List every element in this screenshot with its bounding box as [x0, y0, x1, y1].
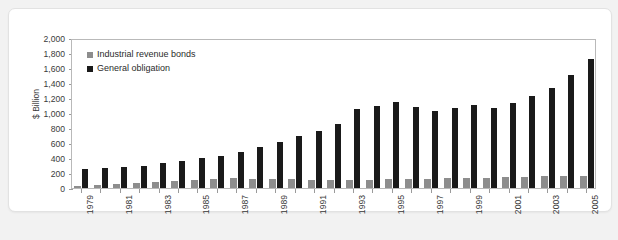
- bar-group: [520, 40, 537, 188]
- bar-group: [579, 40, 596, 188]
- y-tick-label: 1,000: [43, 109, 65, 119]
- y-tick-label: 2,000: [43, 34, 65, 44]
- bar-general-obligation: [199, 158, 205, 188]
- bar-industrial-revenue-bonds: [230, 178, 237, 188]
- y-tick-label: 200: [51, 169, 65, 179]
- bar-industrial-revenue-bonds: [94, 185, 101, 188]
- bar-general-obligation: [102, 168, 108, 188]
- bar-industrial-revenue-bonds: [171, 181, 178, 188]
- y-axis-tick-labels: 02004006008001,0001,2001,4001,6001,8002,…: [27, 31, 69, 183]
- bar-industrial-revenue-bonds: [308, 180, 315, 188]
- bar-general-obligation: [82, 169, 88, 189]
- bar-group: [540, 40, 557, 188]
- bar-industrial-revenue-bonds: [191, 180, 198, 188]
- chart-legend: Industrial revenue bondsGeneral obligati…: [87, 49, 196, 77]
- x-tick-label: 1999: [474, 195, 484, 229]
- bar-industrial-revenue-bonds: [133, 183, 140, 188]
- bar-industrial-revenue-bonds: [580, 176, 587, 188]
- y-tick-label: 1,600: [43, 64, 65, 74]
- x-tick-label: 1993: [357, 195, 367, 229]
- bar-group: [559, 40, 576, 188]
- legend-item[interactable]: General obligation: [87, 63, 196, 74]
- x-tick-label: 2005: [590, 195, 600, 229]
- bar-industrial-revenue-bonds: [483, 178, 490, 189]
- bar-group: [248, 40, 265, 188]
- bar-industrial-revenue-bonds: [463, 178, 470, 188]
- bar-group: [462, 40, 479, 188]
- bar-group: [365, 40, 382, 188]
- bar-industrial-revenue-bonds: [269, 179, 276, 188]
- bar-general-obligation: [160, 163, 166, 188]
- bar-general-obligation: [296, 136, 302, 188]
- bar-general-obligation: [568, 75, 574, 188]
- bar-general-obligation: [413, 107, 419, 188]
- legend-item[interactable]: Industrial revenue bonds: [87, 49, 196, 60]
- bar-general-obligation: [491, 108, 497, 188]
- bar-general-obligation: [529, 96, 535, 188]
- x-tick-label: 1991: [318, 195, 328, 229]
- bar-group: [345, 40, 362, 188]
- bar-industrial-revenue-bonds: [74, 186, 81, 188]
- bar-industrial-revenue-bonds: [560, 176, 567, 188]
- x-tick-label: 2001: [513, 195, 523, 229]
- bar-industrial-revenue-bonds: [385, 179, 392, 188]
- y-tick-label: 800: [51, 124, 65, 134]
- x-tick-label: 1997: [435, 195, 445, 229]
- legend-label: General obligation: [97, 63, 170, 74]
- bar-industrial-revenue-bonds: [288, 179, 295, 188]
- bar-group: [287, 40, 304, 188]
- bar-industrial-revenue-bonds: [521, 177, 528, 188]
- bar-industrial-revenue-bonds: [210, 179, 217, 188]
- y-tick-label: 400: [51, 154, 65, 164]
- bar-general-obligation: [277, 142, 283, 189]
- legend-swatch-icon: [87, 66, 93, 72]
- x-tick-label: 2003: [551, 195, 561, 229]
- bar-industrial-revenue-bonds: [424, 179, 431, 188]
- bar-group: [443, 40, 460, 188]
- x-tick-label: 1985: [201, 195, 211, 229]
- bar-general-obligation: [432, 111, 438, 188]
- bar-industrial-revenue-bonds: [113, 184, 120, 188]
- bar-group: [326, 40, 343, 188]
- y-tick-label: 600: [51, 139, 65, 149]
- x-tick-label: 1995: [396, 195, 406, 229]
- chart-card: $ Billion 02004006008001,0001,2001,4001,…: [8, 8, 612, 212]
- bar-general-obligation: [588, 59, 594, 188]
- x-tick-label: 1987: [240, 195, 250, 229]
- legend-label: Industrial revenue bonds: [97, 49, 196, 60]
- y-tick-label: 1,200: [43, 94, 65, 104]
- x-axis-tick-labels: 1979198119831985198719891991199319951997…: [71, 193, 596, 237]
- bar-general-obligation: [374, 106, 380, 189]
- legend-swatch-icon: [87, 52, 93, 58]
- y-tick-label: 1,800: [43, 49, 65, 59]
- bar-group: [482, 40, 499, 188]
- bar-general-obligation: [393, 102, 399, 188]
- bar-general-obligation: [354, 109, 360, 189]
- bar-general-obligation: [549, 88, 555, 189]
- x-tick-label: 1979: [85, 195, 95, 229]
- x-tick-label: 1981: [124, 195, 134, 229]
- x-tick-label: 1989: [279, 195, 289, 229]
- bar-industrial-revenue-bonds: [405, 179, 412, 188]
- bar-industrial-revenue-bonds: [541, 176, 548, 188]
- bar-general-obligation: [316, 131, 322, 188]
- bar-general-obligation: [121, 167, 127, 188]
- y-tick-label: 1,400: [43, 79, 65, 89]
- bar-group: [423, 40, 440, 188]
- bar-group: [229, 40, 246, 188]
- bar-industrial-revenue-bonds: [366, 180, 373, 188]
- bar-group: [501, 40, 518, 188]
- bar-industrial-revenue-bonds: [249, 179, 256, 188]
- x-tick-label: 1983: [163, 195, 173, 229]
- bar-general-obligation: [179, 161, 185, 188]
- bar-group: [268, 40, 285, 188]
- bar-general-obligation: [141, 166, 147, 189]
- bar-general-obligation: [257, 147, 263, 188]
- bar-industrial-revenue-bonds: [444, 178, 451, 188]
- bar-general-obligation: [471, 105, 477, 188]
- bar-industrial-revenue-bonds: [502, 177, 509, 188]
- bar-general-obligation: [218, 156, 224, 188]
- bar-group: [404, 40, 421, 188]
- bar-industrial-revenue-bonds: [346, 180, 353, 188]
- bar-group: [307, 40, 324, 188]
